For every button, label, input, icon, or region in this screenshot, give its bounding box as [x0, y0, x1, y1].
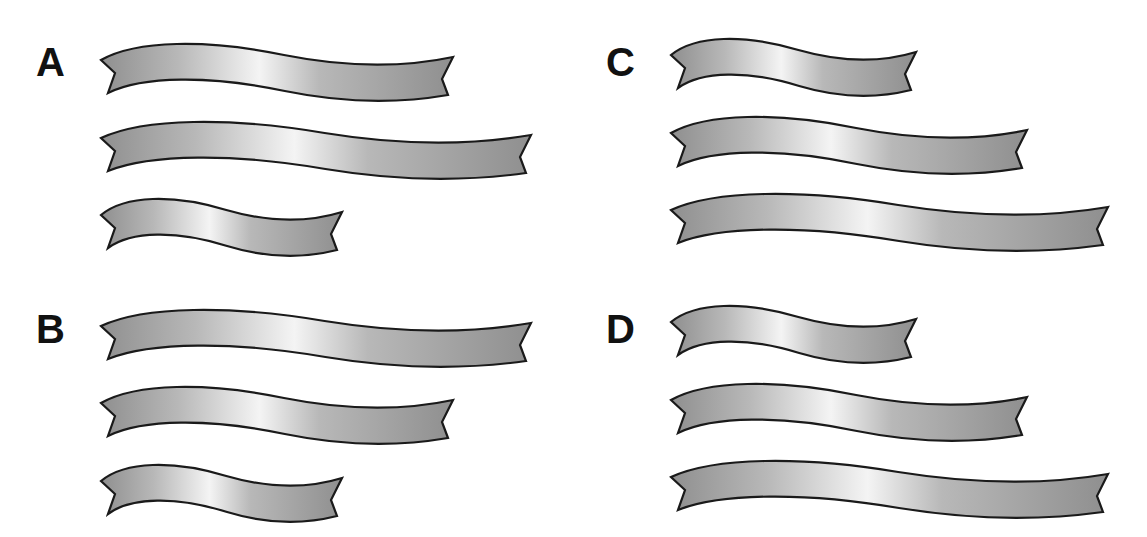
- ribbon-c-3-long: [671, 194, 1108, 251]
- ribbon-c-2-medium: [671, 117, 1027, 174]
- ribbon-d-3-long: [671, 461, 1108, 518]
- option-group-d: [671, 306, 1108, 518]
- option-group-a: [101, 44, 531, 256]
- ribbon-a-2-long: [101, 122, 531, 179]
- ribbon-d-2-medium: [671, 384, 1027, 441]
- ribbon-options-figure: A B C D: [0, 0, 1147, 537]
- ribbon-d-1-short: [671, 306, 916, 363]
- ribbon-b-2-medium: [101, 387, 453, 444]
- option-group-b: [101, 310, 531, 522]
- ribbon-a-1-medium: [101, 44, 453, 101]
- ribbons-canvas: [0, 0, 1147, 537]
- ribbon-c-1-short: [671, 39, 916, 96]
- ribbon-b-1-long: [101, 310, 531, 367]
- ribbon-a-3-short: [101, 199, 342, 256]
- option-group-c: [671, 39, 1108, 251]
- ribbon-b-3-short: [101, 465, 342, 522]
